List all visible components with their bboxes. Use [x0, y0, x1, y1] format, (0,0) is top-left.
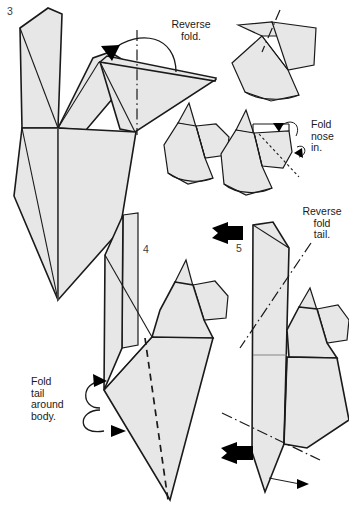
origami-diagram-page: 3 Reverse fold.: [0, 0, 349, 527]
step-number-4: 4: [143, 243, 149, 255]
figure-fold-nose-in: [221, 110, 305, 195]
caption-rft-line-3: tail.: [314, 228, 330, 240]
turn-arrow-step-5-lower: [221, 442, 253, 464]
step4-lower-body: [104, 337, 213, 500]
caption-reverse-fold-line-2: fold.: [181, 30, 201, 42]
caption-fold-nose-in: Fold nose in.: [311, 118, 334, 153]
caption-fold-nose-in-line-2: nose: [311, 130, 334, 142]
diagram-canvas: 3 Reverse fold.: [0, 0, 349, 527]
caption-fold-nose-in-line-3: in.: [311, 141, 322, 153]
step3-lower-left-body: [14, 128, 58, 300]
caption-ftb-line-4: body.: [31, 410, 56, 422]
caption-reverse-fold: Reverse fold.: [171, 18, 210, 42]
ftb-arrow-curve-lower: [83, 410, 104, 432]
caption-reverse-fold-tail: Reverse fold tail.: [302, 205, 341, 240]
ftb-arrow-curve-upper: [86, 382, 100, 408]
step3-upper-left-panel: [20, 8, 62, 128]
figure-head-before-nose-fold: [164, 103, 229, 184]
turn-arrow-lower-icon: [221, 442, 253, 464]
fni-arrowhead-top: [273, 123, 284, 132]
caption-fold-nose-in-line-1: Fold: [311, 118, 332, 130]
caption-reverse-fold-line-1: Reverse: [171, 18, 210, 30]
step5-small-arrow-line: [269, 478, 300, 484]
figure-step-4: 4: [104, 213, 228, 500]
caption-fold-tail-around-body: Fold tail around body.: [31, 375, 64, 422]
caption-ftb-line-2: tail: [31, 387, 44, 399]
step4-tail-strip: [122, 213, 138, 348]
step5-lower-body: [284, 357, 349, 448]
caption-ftb-line-3: around: [31, 398, 64, 410]
ftb-arrowhead-lower: [111, 425, 126, 437]
caption-rft-line-1: Reverse: [302, 205, 341, 217]
step-number-3: 3: [7, 5, 13, 17]
fni-arrowhead-bottom: [294, 148, 303, 158]
caption-rft-line-2: fold: [314, 217, 331, 229]
step-number-5: 5: [236, 242, 242, 254]
step5-small-arrowhead: [297, 479, 309, 489]
step5-tail-strip: [252, 222, 289, 492]
figure-reverse-fold-result: [232, 10, 316, 101]
turn-arrow-step-4-to-5: [212, 222, 243, 244]
turn-arrow-upper-icon: [212, 222, 243, 244]
caption-ftb-line-1: Fold: [31, 375, 52, 387]
